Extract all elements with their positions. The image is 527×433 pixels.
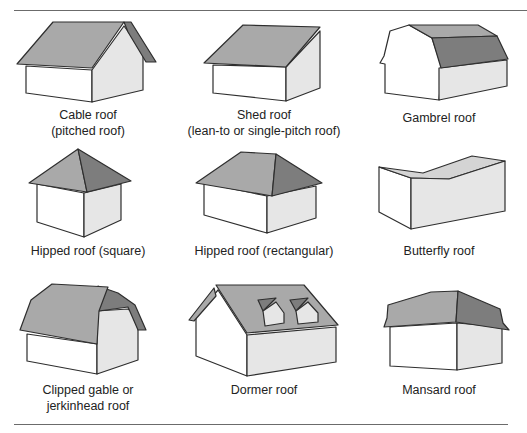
caption-line: Cable roof xyxy=(0,107,176,123)
bottom-rule xyxy=(14,424,508,425)
caption-line: Mansard roof xyxy=(351,382,527,398)
caption-line: Butterfly roof xyxy=(351,243,527,259)
caption-gambrel-roof: Gambrel roof xyxy=(351,110,527,126)
mansard-roof-drawing xyxy=(384,291,509,370)
roof-illustrations xyxy=(0,0,527,433)
caption-clipped-gable-roof: Clipped gable or jerkinhead roof xyxy=(0,382,176,414)
caption-butterfly-roof: Butterfly roof xyxy=(351,243,527,259)
butterfly-roof-drawing xyxy=(379,156,505,229)
caption-line: Gambrel roof xyxy=(351,110,527,126)
caption-line: Shed roof xyxy=(176,107,352,123)
caption-cable-roof: Cable roof (pitched roof) xyxy=(0,107,176,139)
caption-line: Hipped roof (square) xyxy=(0,243,176,259)
caption-hipped-square-roof: Hipped roof (square) xyxy=(0,243,176,259)
hipped-square-roof-drawing xyxy=(29,149,131,237)
caption-line: (pitched roof) xyxy=(0,123,176,139)
caption-dormer-roof: Dormer roof xyxy=(176,382,352,398)
caption-line: Hipped roof (rectangular) xyxy=(176,243,352,259)
hipped-rect-roof-drawing xyxy=(196,152,322,233)
gambrel-roof-drawing xyxy=(380,25,508,100)
caption-line: jerkinhead roof xyxy=(0,398,176,414)
caption-hipped-rect-roof: Hipped roof (rectangular) xyxy=(176,243,352,259)
caption-line: Dormer roof xyxy=(176,382,352,398)
clipped-gable-roof-drawing xyxy=(20,284,146,374)
caption-shed-roof: Shed roof (lean-to or single-pitch roof) xyxy=(176,107,352,139)
cable-roof-drawing xyxy=(17,22,156,102)
caption-line: Clipped gable or xyxy=(0,382,176,398)
shed-roof-drawing xyxy=(204,25,320,101)
dormer-roof-drawing xyxy=(189,285,338,376)
caption-line: (lean-to or single-pitch roof) xyxy=(176,123,352,139)
caption-mansard-roof: Mansard roof xyxy=(351,382,527,398)
